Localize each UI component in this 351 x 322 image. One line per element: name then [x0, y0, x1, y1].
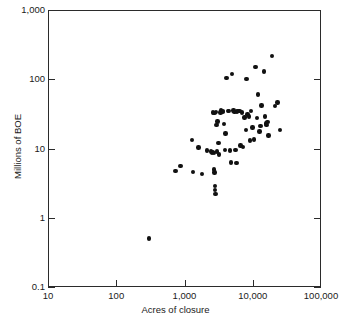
scatter-plot-figure: 1,0001001010.1 101001,00010,000100,000 A…: [0, 0, 351, 322]
y-tick-mark: [48, 79, 55, 80]
y-tick-mark-right: [314, 79, 321, 80]
x-tick-label: 100,000: [304, 290, 338, 301]
y-tick-label: 100: [29, 74, 45, 84]
y-tick-mark: [48, 287, 55, 288]
y-tick-mark: [48, 218, 55, 219]
y-tick-mark-right: [314, 10, 321, 11]
y-tick-mark: [48, 149, 55, 150]
y-tick-label: 1: [40, 213, 45, 223]
y-axis-title: Millions of BOE: [12, 82, 23, 212]
x-tick-label: 10,000: [238, 290, 267, 301]
x-tick-label: 100: [108, 290, 124, 301]
x-tick-mark: [185, 280, 186, 287]
x-tick-mark: [116, 280, 117, 287]
x-tick-label: 10: [43, 290, 54, 301]
x-axis-title: Acres of closure: [0, 304, 351, 315]
y-tick-mark-right: [314, 149, 321, 150]
y-tick-label: 1,000: [21, 5, 45, 15]
y-tick-label: 10: [34, 144, 45, 154]
y-tick-mark-right: [314, 287, 321, 288]
y-tick-mark: [48, 10, 55, 11]
x-tick-mark: [253, 280, 254, 287]
x-tick-label: 1,000: [173, 290, 197, 301]
y-tick-mark-right: [314, 218, 321, 219]
plot-area-frame: [48, 10, 321, 287]
